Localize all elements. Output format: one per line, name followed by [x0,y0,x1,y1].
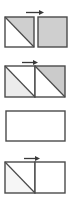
arrow-right-icon [26,9,44,16]
cell-diagonal-upper-shaded [35,66,65,97]
square-solid-gray [38,17,67,47]
cell-diagonal-lower-shaded [5,66,35,97]
cell-diagonal-faint [5,162,35,193]
empty-rect [5,110,66,142]
cell-blank [35,162,65,193]
diagram-canvas [0,0,70,200]
square-diagonal-upper-shaded [5,17,34,47]
cell-blank [6,111,65,141]
split-rect-two-diagonals [4,65,66,98]
two-squares-row [4,16,68,48]
split-rect-single-diagonal [4,161,66,194]
